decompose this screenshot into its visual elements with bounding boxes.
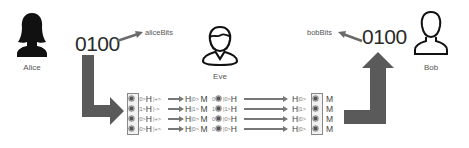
qubit-icon	[312, 115, 319, 122]
qubit-icon	[215, 115, 222, 122]
qubit-icon	[215, 125, 222, 132]
alice-prep-gate: |0>H	[138, 94, 152, 103]
channel-arrow	[168, 94, 180, 103]
bob-qubit	[312, 124, 319, 133]
channel-arrow	[168, 124, 180, 133]
bob-receive-arrow-icon	[342, 50, 402, 126]
qubit-icon	[312, 95, 319, 102]
alice-bits-arrow-icon	[116, 29, 144, 43]
bob-basis-gate: H|1>	[292, 104, 306, 113]
qubit-icon	[128, 115, 135, 122]
alice-qubit	[128, 94, 135, 103]
alice-qubit	[128, 104, 135, 113]
eve-avatar-icon	[200, 25, 240, 67]
eve-measure-gate: H|0> M	[185, 124, 207, 133]
eve-qubit: 0	[212, 124, 222, 133]
alice-label: Alice	[12, 63, 52, 72]
eve-qubit: 1	[212, 104, 222, 113]
channel-arrow-icon	[168, 108, 180, 110]
channel-arrow	[244, 124, 284, 133]
qubit-icon	[128, 125, 135, 132]
polarized-state: |->	[153, 104, 159, 113]
channel-arrow	[244, 114, 284, 123]
alice-send-arrow-icon	[80, 55, 128, 127]
bob-qubit	[312, 104, 319, 113]
polarized-state: |+>	[153, 124, 161, 133]
alice-prep-gate: |0>H	[138, 114, 152, 123]
eve-resend-gate: |0>H	[223, 114, 237, 123]
eve-resend-gate: |0>H	[223, 94, 237, 103]
eve-resend-gate: |0>H	[223, 124, 237, 133]
channel-arrow	[244, 94, 284, 103]
bob-basis-gate: H|0>	[292, 124, 306, 133]
bob-basis-gate: H|0>	[292, 114, 306, 123]
alice-avatar-icon	[16, 12, 48, 58]
bob-avatar-icon	[413, 10, 449, 56]
eve-qubit: 0	[212, 114, 222, 123]
bob-measure: M	[326, 114, 333, 123]
bob-bits-arrow-icon	[337, 29, 363, 43]
channel-arrow	[168, 104, 180, 113]
eve-label: Eve	[200, 72, 240, 81]
qubit-icon	[215, 105, 222, 112]
bob-qubit	[312, 94, 319, 103]
channel-arrow-icon	[244, 108, 284, 110]
channel-arrow	[244, 104, 284, 113]
channel-arrow-icon	[168, 98, 180, 100]
bob-basis-gate: H|0>	[292, 94, 306, 103]
channel-arrow-icon	[244, 98, 284, 100]
channel-arrow	[168, 114, 180, 123]
channel-arrow-icon	[168, 128, 180, 130]
qubit-icon	[312, 105, 319, 112]
bob-measure: M	[326, 94, 333, 103]
bob-bits-label: bobBits	[307, 28, 332, 37]
bob-label: Bob	[411, 63, 451, 72]
eve-measure-gate: H|0> M	[185, 94, 207, 103]
eve-measure-gate: H|0> M	[185, 114, 207, 123]
eve-qubit: 0	[212, 94, 222, 103]
bob-measure: M	[326, 104, 333, 113]
qubit-icon	[128, 95, 135, 102]
bob-qubit	[312, 114, 319, 123]
qubit-icon	[312, 125, 319, 132]
eve-measure-gate: H|1> M	[185, 104, 207, 113]
polarized-state: |+>	[153, 94, 161, 103]
bob-measure: M	[326, 124, 333, 133]
alice-prep-gate: |1>H	[138, 104, 152, 113]
bob-bits-value: 0100	[362, 26, 407, 47]
channel-arrow-icon	[244, 128, 284, 130]
eve-resend-gate: |1>H	[223, 104, 237, 113]
alice-prep-gate: |0>H	[138, 124, 152, 133]
alice-bits-value: 0100	[75, 33, 120, 54]
alice-bits-label: aliceBits	[145, 28, 173, 37]
alice-qubit	[128, 124, 135, 133]
channel-arrow-icon	[168, 118, 180, 120]
polarized-state: |+>	[153, 114, 161, 123]
qubit-icon	[215, 95, 222, 102]
channel-arrow-icon	[244, 118, 284, 120]
alice-qubit	[128, 114, 135, 123]
qubit-icon	[128, 105, 135, 112]
